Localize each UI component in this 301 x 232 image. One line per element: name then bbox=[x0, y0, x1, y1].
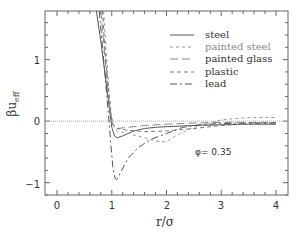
y-tick-label: 1 bbox=[34, 55, 40, 66]
y-axis-label-subscript: eff bbox=[12, 90, 21, 102]
legend-label-painted-glass: painted glass bbox=[205, 53, 272, 64]
legend-label-lead: lead bbox=[205, 78, 227, 89]
y-axis-label: βueff bbox=[5, 90, 21, 116]
legend: steel painted steel painted glass plasti… bbox=[170, 29, 272, 89]
legend-label-painted-steel: painted steel bbox=[205, 41, 271, 52]
x-tick-labels: 0 1 2 3 4 bbox=[54, 200, 279, 211]
curve-lead bbox=[99, 11, 276, 180]
curve-painted-glass bbox=[101, 11, 276, 129]
curve-plastic bbox=[103, 11, 277, 132]
legend-label-plastic: plastic bbox=[205, 66, 239, 77]
y-tick-label: 0 bbox=[34, 116, 40, 127]
x-tick-label: 4 bbox=[273, 200, 279, 211]
chart: 0 1 2 3 4 1 0 −1 r/σ βueff steel painted… bbox=[0, 0, 301, 232]
y-tick-labels: 1 0 −1 bbox=[25, 55, 40, 190]
curves bbox=[96, 11, 276, 180]
legend-label-steel: steel bbox=[205, 29, 229, 40]
x-tick-label: 1 bbox=[109, 200, 115, 211]
phi-annotation: φ= 0.35 bbox=[195, 147, 231, 157]
curve-steel bbox=[96, 11, 276, 138]
y-axis-label-main: βu bbox=[5, 102, 19, 117]
plot-frame bbox=[45, 11, 288, 195]
x-axis-label: r/σ bbox=[156, 215, 174, 229]
axis-ticks bbox=[45, 11, 288, 195]
svg-text:βueff: βueff bbox=[5, 90, 21, 116]
y-tick-label: −1 bbox=[25, 179, 40, 190]
x-tick-label: 2 bbox=[164, 200, 170, 211]
x-tick-label: 0 bbox=[54, 200, 60, 211]
x-tick-label: 3 bbox=[218, 200, 224, 211]
